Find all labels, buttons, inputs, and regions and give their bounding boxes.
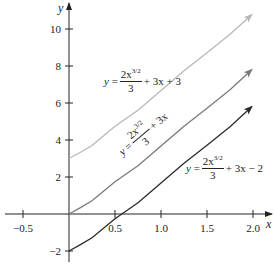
eq-numerator: 2x <box>203 155 214 167</box>
equation-label-bottom: y = 2x3/2 3 + 3x − 2 <box>186 155 263 181</box>
eq-fraction: 2x3/2 3 <box>202 155 224 181</box>
eq-lhs: y <box>186 162 191 174</box>
y-tick-label: 8 <box>56 60 62 72</box>
eq-exponent: 3/2 <box>214 154 223 162</box>
eq-exponent: 3/2 <box>132 67 141 75</box>
eq-rest: + 3x − 2 <box>226 162 263 174</box>
eq-equals: = <box>194 162 200 174</box>
y-axis-label: y <box>57 1 64 15</box>
eq-equals: = <box>112 75 118 87</box>
eq-denominator: 3 <box>210 169 216 181</box>
x-tick-label: 0.5 <box>108 222 122 234</box>
y-tick-label: 4 <box>56 134 62 146</box>
eq-rest: + 3x + 3 <box>144 75 181 87</box>
equation-label-top: y = 2x3/2 3 + 3x + 3 <box>104 68 181 94</box>
y-tick-label: 2 <box>56 171 62 183</box>
x-tick-label: 2.0 <box>246 222 260 234</box>
eq-numerator: 2x <box>121 68 132 80</box>
x-tick-label: 1.5 <box>200 222 214 234</box>
x-tick-label: −0.5 <box>13 222 33 234</box>
eq-denominator: 3 <box>128 82 134 94</box>
eq-lhs: y <box>104 75 109 87</box>
eq-fraction: 2x3/2 3 <box>120 68 142 94</box>
x-tick-label: 1.0 <box>154 222 168 234</box>
y-tick-label: 6 <box>56 97 62 109</box>
x-axis-label: x <box>265 217 272 231</box>
y-tick-label: −2 <box>49 245 61 257</box>
y-tick-label: 10 <box>50 23 62 35</box>
